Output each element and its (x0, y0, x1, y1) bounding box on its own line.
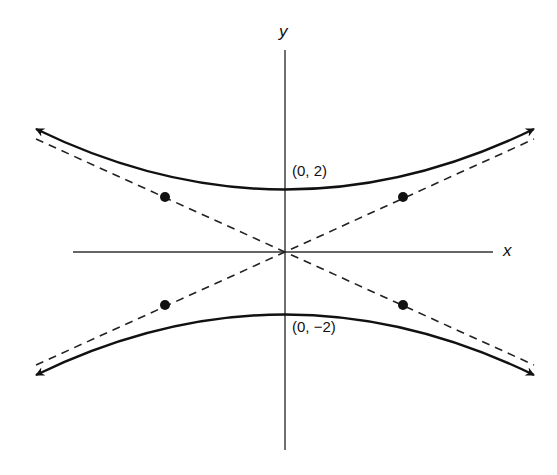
point-upper-left (160, 192, 170, 202)
point-upper-right (398, 192, 408, 202)
point-lower-right (398, 300, 408, 310)
hyperbola-diagram: y x (0, 2) (0, −2) (0, 0, 557, 475)
vertex-top-label: (0, 2) (292, 162, 327, 179)
x-axis-label: x (503, 241, 512, 261)
y-axis-label: y (279, 22, 288, 42)
vertex-bottom-label: (0, −2) (292, 318, 336, 335)
hyperbola-plot (0, 0, 557, 475)
point-lower-left (160, 300, 170, 310)
